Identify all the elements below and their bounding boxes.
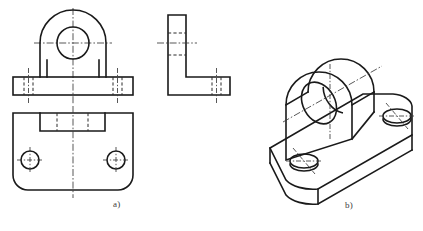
technical-drawing-canvas: .v{fill:none;stroke:#1a1a1a;stroke-width… [0,0,423,231]
caption-b: b) [345,200,353,210]
caption-a: a) [113,199,121,209]
drawing-sheet: .v{fill:none;stroke:#1a1a1a;stroke-width… [0,0,423,231]
sheet-background [0,0,423,231]
